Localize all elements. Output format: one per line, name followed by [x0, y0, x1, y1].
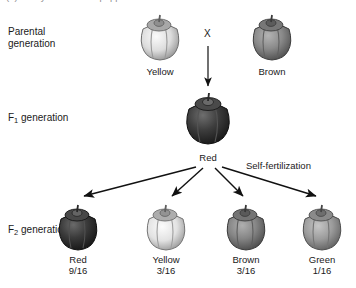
dihybrid-cross-figure: (b) A dihybrid cross in peppers Parental… — [0, 0, 356, 288]
f2-red-name: Red — [69, 254, 86, 265]
caption-f2-green: Green 1/16 — [309, 254, 335, 276]
cross-symbol: X — [204, 28, 211, 39]
f1-label-subscript: 1 — [14, 116, 18, 125]
f2-yellow-name: Yellow — [152, 254, 179, 265]
caption-f2-red: Red 9/16 — [69, 254, 88, 276]
pepper-f2-brown — [218, 202, 274, 256]
f2-red-ratio: 9/16 — [69, 265, 88, 276]
caption-f2-brown: Brown 3/16 — [233, 254, 260, 276]
caption-f1-red: Red — [199, 152, 216, 163]
caption-f2-yellow: Yellow 3/16 — [152, 254, 179, 276]
f2-green-ratio: 1/16 — [313, 265, 332, 276]
pepper-parental-yellow — [132, 12, 188, 66]
f1-label-suffix: generation — [18, 112, 68, 123]
row-label-parental: Parental generation — [8, 26, 55, 50]
f2-brown-ratio: 3/16 — [237, 265, 256, 276]
caption-parental-brown: Brown — [259, 66, 286, 77]
pepper-f1-red — [177, 90, 239, 152]
parental-label-line1: Parental — [8, 26, 45, 37]
parental-label-line2: generation — [8, 38, 55, 49]
caption-parental-yellow: Yellow — [146, 66, 173, 77]
pepper-f2-red — [50, 202, 106, 256]
f2-yellow-ratio: 3/16 — [157, 265, 176, 276]
row-label-f1: F1 generation — [8, 112, 68, 125]
f2-brown-name: Brown — [233, 254, 260, 265]
f2-label-subscript: 2 — [14, 228, 18, 237]
figure-caption: (b) A dihybrid cross in peppers — [6, 0, 346, 3]
self-fertilization-label: Self-fertilization — [246, 160, 311, 171]
f2-green-name: Green — [309, 254, 335, 265]
pepper-f2-green — [294, 202, 350, 256]
pepper-parental-brown — [244, 12, 300, 66]
pepper-f2-yellow — [138, 202, 194, 256]
